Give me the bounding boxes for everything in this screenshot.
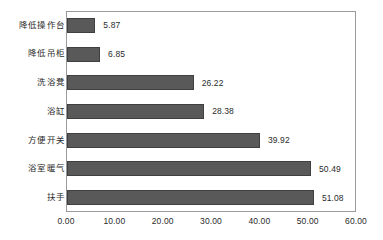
category-label: 方便开关 <box>3 136 65 145</box>
bar-value-label: 50.49 <box>319 164 341 174</box>
x-tick-label: 40.00 <box>248 216 270 226</box>
x-tick-label: 20.00 <box>152 216 174 226</box>
bar[interactable] <box>67 190 314 205</box>
bar-value-label: 51.08 <box>322 193 344 203</box>
bar-track: 28.38 <box>67 97 356 126</box>
x-tick-label: 60.00 <box>345 216 367 226</box>
bar-row: 降低操作台5.87 <box>0 11 383 40</box>
bar-track: 6.85 <box>67 40 356 69</box>
bar[interactable] <box>67 18 95 33</box>
bar-value-label: 5.87 <box>103 20 120 30</box>
bar-row: 降低吊柜6.85 <box>0 40 383 69</box>
bar-value-label: 28.38 <box>212 106 234 116</box>
x-tick-label: 10.00 <box>103 216 125 226</box>
bar-value-label: 39.92 <box>268 135 290 145</box>
category-label: 洗浴凳 <box>3 78 65 87</box>
bar-value-label: 26.22 <box>202 78 224 88</box>
bar-track: 50.49 <box>67 155 356 184</box>
x-tick-label: 30.00 <box>200 216 222 226</box>
category-label: 降低吊柜 <box>3 49 65 58</box>
bar[interactable] <box>67 161 311 176</box>
category-label: 降低操作台 <box>3 21 65 30</box>
bar-chart: 降低操作台5.87降低吊柜6.85洗浴凳26.22浴缸28.38方便开关39.9… <box>0 0 383 240</box>
bar[interactable] <box>67 75 194 90</box>
bar-row: 扶手51.08 <box>0 183 383 212</box>
bar[interactable] <box>67 104 204 119</box>
x-tick-label: 0.00 <box>58 216 75 226</box>
bar-row: 浴室暖气50.49 <box>0 155 383 184</box>
bar[interactable] <box>67 133 260 148</box>
category-label: 浴缸 <box>3 107 65 116</box>
category-label: 浴室暖气 <box>3 164 65 173</box>
bar-value-label: 6.85 <box>108 49 125 59</box>
bar-row: 浴缸28.38 <box>0 97 383 126</box>
x-tick-label: 50.00 <box>297 216 319 226</box>
bar-track: 26.22 <box>67 68 356 97</box>
bar-row: 方便开关39.92 <box>0 126 383 155</box>
bar-row: 洗浴凳26.22 <box>0 68 383 97</box>
bar-track: 5.87 <box>67 11 356 40</box>
category-label: 扶手 <box>3 193 65 202</box>
bar-track: 51.08 <box>67 183 356 212</box>
bar[interactable] <box>67 47 100 62</box>
bar-track: 39.92 <box>67 126 356 155</box>
